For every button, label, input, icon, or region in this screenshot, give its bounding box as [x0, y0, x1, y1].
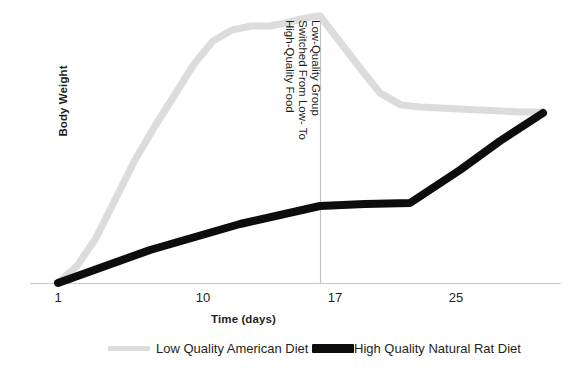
diet-switch-annotation-text: Low-Quality Group Switched From Low- To …	[282, 20, 322, 195]
legend-label-high-quality: High Quality Natural Rat Diet	[354, 341, 521, 356]
annotation-line-2: Switched From Low- To	[296, 20, 309, 195]
x-axis-title: Time (days)	[211, 313, 276, 325]
annotation-line-1: Low-Quality Group	[309, 20, 322, 195]
y-axis-title: Body Weight	[57, 41, 75, 161]
x-axis-tick-label-1: 1	[38, 290, 78, 305]
legend-label-low-quality: Low Quality American Diet	[156, 341, 308, 356]
chart-legend: Low Quality American Diet High Quality N…	[0, 337, 583, 359]
x-axis-tick-label-17: 17	[315, 290, 355, 305]
diet-switch-annotation: Low-Quality Group Switched From Low- To …	[322, 20, 323, 21]
legend-swatch-high-quality-icon	[312, 344, 354, 353]
legend-swatch-low-quality-icon	[108, 346, 150, 351]
legend-item-low-quality-american-diet: Low Quality American Diet	[108, 337, 308, 359]
annotation-line-3: High-Quality Food	[282, 20, 295, 195]
legend-item-high-quality-natural-rat-diet: High Quality Natural Rat Diet	[312, 337, 521, 359]
x-axis-title-wrapper: Time (days)	[0, 313, 583, 325]
x-axis-tick-label-10: 10	[183, 290, 223, 305]
x-axis-tick-label-25: 25	[436, 290, 476, 305]
chart-container: Body Weight 1 10 17 25 Time (days) Low-Q…	[0, 0, 583, 372]
